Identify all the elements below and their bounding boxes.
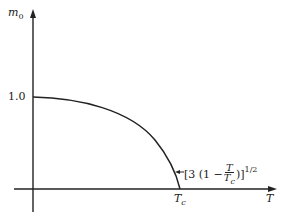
y-tick-label: 1.0 bbox=[8, 90, 26, 103]
formula-annotation: [3 (1 − T Tc )] 1/2 bbox=[184, 163, 257, 186]
y-axis-label: m0 bbox=[8, 6, 24, 21]
magnetization-curve bbox=[33, 97, 180, 189]
x-axis-label: T bbox=[266, 192, 273, 205]
fraction-denominator: Tc bbox=[224, 173, 235, 186]
formula-exponent: 1/2 bbox=[245, 165, 258, 174]
formula-suffix: )] bbox=[236, 168, 245, 181]
formula-fraction: T Tc bbox=[224, 163, 235, 186]
y-axis-arrow-icon bbox=[30, 9, 36, 18]
diagram-canvas bbox=[0, 0, 286, 220]
x-tick-label: Tc bbox=[174, 192, 186, 207]
formula-prefix: [3 (1 − bbox=[184, 168, 223, 181]
